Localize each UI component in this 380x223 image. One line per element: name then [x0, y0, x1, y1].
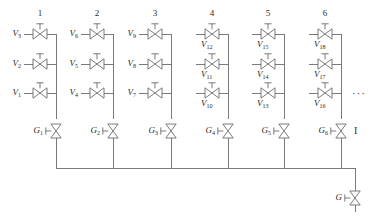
- label-outlet-valve: G: [336, 193, 343, 202]
- label-G6: G6: [319, 126, 329, 136]
- valve-V17[interactable]: [318, 54, 332, 69]
- valve-V3[interactable]: [33, 24, 47, 39]
- label-V4-subscript: 4: [75, 92, 78, 98]
- valve-V4[interactable]: [90, 83, 104, 98]
- label-V5-subscript: 5: [75, 63, 78, 69]
- label-V16-subscript: 16: [320, 103, 326, 109]
- valve-V5[interactable]: [90, 54, 104, 69]
- gate-valve-G4[interactable]: [218, 124, 233, 138]
- label-V12-subscript: 12: [207, 44, 213, 50]
- valve-V6[interactable]: [90, 24, 104, 39]
- label-V18: V18: [314, 40, 326, 50]
- valve-V14[interactable]: [261, 54, 275, 69]
- label-V10: V10: [201, 99, 213, 109]
- label-G5-subscript: 5: [268, 130, 271, 136]
- label-V12: V12: [201, 40, 213, 50]
- gate-valve-G3[interactable]: [161, 124, 176, 138]
- valve-V8[interactable]: [148, 54, 162, 69]
- outlet-valve[interactable]: [345, 191, 360, 205]
- column-number-4: 4: [202, 9, 222, 18]
- label-G2-subscript: 2: [97, 130, 100, 136]
- valve-V13[interactable]: [261, 83, 275, 98]
- continuation-ellipsis: ···: [352, 88, 366, 99]
- column-number-6: 6: [315, 9, 335, 18]
- column-number-1: 1: [30, 9, 50, 18]
- column-number-2: 2: [87, 9, 107, 18]
- gate-valve-G1[interactable]: [46, 124, 61, 138]
- valve-V10[interactable]: [205, 83, 219, 98]
- column-number-3: 3: [145, 9, 165, 18]
- label-outlet-valve-base: G: [336, 192, 343, 202]
- label-G1-subscript: 1: [40, 130, 43, 136]
- label-V9: V9: [128, 29, 137, 39]
- label-V1-subscript: 1: [18, 92, 21, 98]
- label-V17: V17: [314, 70, 326, 80]
- label-V1: V1: [13, 88, 22, 98]
- label-G3-subscript: 3: [155, 130, 158, 136]
- valve-V7[interactable]: [148, 83, 162, 98]
- label-G6-subscript: 6: [325, 130, 328, 136]
- label-V10-subscript: 10: [207, 103, 213, 109]
- label-G2: G2: [91, 126, 101, 136]
- valve-V2[interactable]: [33, 54, 47, 69]
- label-V2: V2: [13, 59, 22, 69]
- valve-V16[interactable]: [318, 83, 332, 98]
- label-V15: V15: [257, 40, 269, 50]
- label-V3: V3: [13, 29, 22, 39]
- valve-V9[interactable]: [148, 24, 162, 39]
- label-V8: V8: [128, 59, 137, 69]
- label-V7-subscript: 7: [133, 92, 136, 98]
- label-V8-subscript: 8: [133, 63, 136, 69]
- label-V14-subscript: 14: [263, 74, 269, 80]
- valve-V15[interactable]: [261, 24, 275, 39]
- label-G1: G1: [34, 126, 44, 136]
- label-V16: V16: [314, 99, 326, 109]
- label-V3-subscript: 3: [18, 33, 21, 39]
- label-G3: G3: [149, 126, 159, 136]
- label-V11-subscript: 11: [207, 74, 213, 80]
- label-V13: V13: [257, 99, 269, 109]
- label-V14: V14: [257, 70, 269, 80]
- schematic-lines: [0, 0, 380, 223]
- label-V4: V4: [70, 88, 79, 98]
- label-V9-subscript: 9: [133, 33, 136, 39]
- label-V11: V11: [201, 70, 212, 80]
- valve-V1[interactable]: [33, 83, 47, 98]
- label-V15-subscript: 15: [263, 44, 269, 50]
- label-V13-subscript: 13: [263, 103, 269, 109]
- gate-valve-G6[interactable]: [331, 124, 346, 138]
- valve-manifold-diagram: V1V2V31V4V5V62V7V8V93V10V11V124V13V14V15…: [0, 0, 380, 223]
- label-G5: G5: [262, 126, 272, 136]
- label-V17-subscript: 17: [320, 74, 326, 80]
- label-G4: G4: [206, 126, 216, 136]
- valve-V12[interactable]: [205, 24, 219, 39]
- valve-V11[interactable]: [205, 54, 219, 69]
- label-G4-subscript: 4: [212, 130, 215, 136]
- label-V5: V5: [70, 59, 79, 69]
- gate-valve-G2[interactable]: [103, 124, 118, 138]
- column-number-5: 5: [258, 9, 278, 18]
- gate-valve-G5[interactable]: [274, 124, 289, 138]
- label-V6-subscript: 6: [75, 33, 78, 39]
- continuation-marker: I: [354, 126, 357, 136]
- valve-V18[interactable]: [318, 24, 332, 39]
- label-V2-subscript: 2: [18, 63, 21, 69]
- label-V6: V6: [70, 29, 79, 39]
- label-V7: V7: [128, 88, 137, 98]
- label-V18-subscript: 18: [320, 44, 326, 50]
